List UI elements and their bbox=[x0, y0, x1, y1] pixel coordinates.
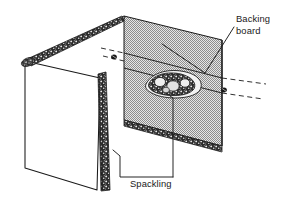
spackling-label-line-1: Spackling bbox=[130, 178, 172, 189]
technical-illustration-figure: Backing board Spackling bbox=[0, 0, 291, 211]
screw-head-right bbox=[221, 88, 226, 92]
backing-board-label-line-2: board bbox=[236, 25, 260, 36]
figure-canvas: Backing board Spackling bbox=[0, 0, 291, 211]
spackling-lump-lower bbox=[163, 87, 170, 93]
spackling-lump-left bbox=[155, 77, 166, 86]
label-group-spackling: Spackling bbox=[130, 178, 172, 189]
spackling-lump-right bbox=[180, 79, 190, 87]
backing-board-label-line-1: Backing bbox=[236, 13, 270, 24]
screw-head-left bbox=[111, 55, 116, 59]
wall-panel-face bbox=[25, 61, 100, 190]
